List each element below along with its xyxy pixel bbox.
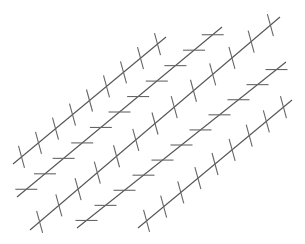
- hatch-tick: [19, 146, 25, 168]
- zollner-illusion-diagram: [0, 0, 305, 244]
- hatch-tick: [114, 145, 120, 167]
- hatch-tick: [121, 61, 127, 83]
- hatch-tick: [280, 96, 286, 118]
- hatch-tick: [144, 210, 150, 232]
- hatch-tick: [53, 118, 59, 140]
- hatch-tick: [229, 47, 235, 69]
- hatch-tick: [36, 132, 42, 154]
- hatch-tick: [87, 90, 93, 112]
- hatch-tick: [212, 153, 218, 175]
- hatch-tick: [229, 139, 235, 161]
- hatch-tick: [248, 31, 254, 53]
- diagonal-line-5: [138, 96, 292, 232]
- hatch-tick: [37, 211, 43, 233]
- diagonal-line-3: [30, 14, 280, 233]
- diagram-svg: [0, 0, 305, 244]
- hatch-tick: [263, 110, 269, 132]
- hatch-tick: [70, 104, 76, 126]
- hatch-tick: [155, 33, 161, 55]
- hatch-tick: [267, 14, 273, 36]
- hatch-tick: [178, 181, 184, 203]
- hatch-tick: [104, 75, 110, 97]
- hatch-tick: [56, 194, 62, 216]
- diagonal-line-1: [13, 33, 166, 168]
- diagonal-line-4: [76, 62, 288, 228]
- hatch-tick: [94, 162, 100, 184]
- parallel-lines-group: [13, 14, 292, 233]
- hatch-tick: [210, 63, 216, 85]
- hatch-tick: [133, 129, 139, 151]
- hatch-tick: [195, 167, 201, 189]
- diagonal-line-2: [15, 27, 223, 197]
- hatch-tick: [161, 196, 167, 218]
- hatch-tick: [171, 96, 177, 118]
- hatch-tick: [246, 125, 252, 147]
- hatch-tick: [190, 80, 196, 102]
- hatch-tick: [152, 113, 158, 135]
- hatch-tick: [138, 47, 144, 69]
- hatch-tick: [75, 178, 81, 200]
